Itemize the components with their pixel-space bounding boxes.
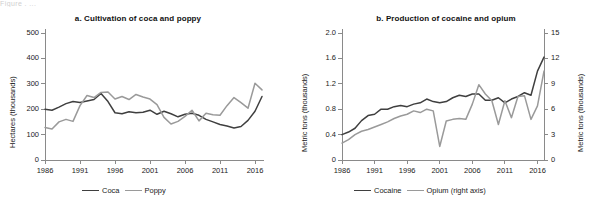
- y-tick-label-right: 15: [551, 28, 559, 37]
- legend-swatch-icon: [82, 190, 99, 191]
- y-tick-label: 0.4: [302, 130, 336, 139]
- y-tick-label: 0.8: [302, 104, 336, 113]
- x-tick-label: 1991: [64, 166, 96, 175]
- series-line-poppy: [45, 83, 262, 129]
- panel-b-legend: CocaineOpium (right axis): [354, 186, 486, 195]
- x-tick-label: 1996: [99, 166, 131, 175]
- y-tick-label: 1.2: [302, 79, 336, 88]
- x-tick-label: 2001: [134, 166, 166, 175]
- x-tick-label: 2006: [456, 166, 488, 175]
- y-tick-label: 100: [5, 130, 39, 139]
- panel-cultivation: a. Cultivation of coca and poppy Hectare…: [0, 0, 292, 201]
- x-tick-label: 2016: [239, 166, 271, 175]
- y-tick-label: 2.0: [302, 28, 336, 37]
- y-tick-label-right: 9: [551, 79, 555, 88]
- series-line-cocaine: [342, 57, 544, 134]
- x-tick-label: 1986: [29, 166, 61, 175]
- legend-swatch-icon: [407, 190, 424, 191]
- y-tick-label: 300: [5, 79, 39, 88]
- legend-label: Cocaine: [374, 186, 402, 195]
- x-tick-label: 2016: [521, 166, 553, 175]
- series-line-opium-right-axis: [342, 71, 544, 146]
- y-tick-label: 500: [5, 28, 39, 37]
- y-tick-label-right: 6: [551, 104, 555, 113]
- y-tick-label-right: 0: [551, 155, 555, 164]
- x-tick-label: 2011: [489, 166, 521, 175]
- y-tick-label: 1.6: [302, 53, 336, 62]
- legend-label: Opium (right axis): [427, 186, 486, 195]
- x-tick-label: 1991: [359, 166, 391, 175]
- y-tick-label: 400: [5, 53, 39, 62]
- x-tick-label: 2006: [169, 166, 201, 175]
- y-tick-label: 0: [302, 155, 336, 164]
- x-tick-label: 1986: [326, 166, 358, 175]
- legend-label: Poppy: [145, 186, 166, 195]
- x-tick-label: 2001: [424, 166, 456, 175]
- legend-swatch-icon: [125, 190, 142, 191]
- panel-production: b. Production of cocaine and opium Metri…: [292, 0, 584, 201]
- y-tick-label: 200: [5, 104, 39, 113]
- y-tick-label-right: 12: [551, 53, 559, 62]
- x-tick-label: 2011: [204, 166, 236, 175]
- panel-a-legend: CocaPoppy: [82, 186, 166, 195]
- legend-entry: Coca: [82, 186, 120, 195]
- legend-entry: Opium (right axis): [407, 186, 486, 195]
- x-tick-label: 1996: [391, 166, 423, 175]
- y-tick-label-right: 3: [551, 130, 555, 139]
- legend-label: Coca: [102, 186, 120, 195]
- legend-swatch-icon: [354, 190, 371, 191]
- legend-entry: Cocaine: [354, 186, 402, 195]
- y-tick-label: 0: [5, 155, 39, 164]
- legend-entry: Poppy: [125, 186, 166, 195]
